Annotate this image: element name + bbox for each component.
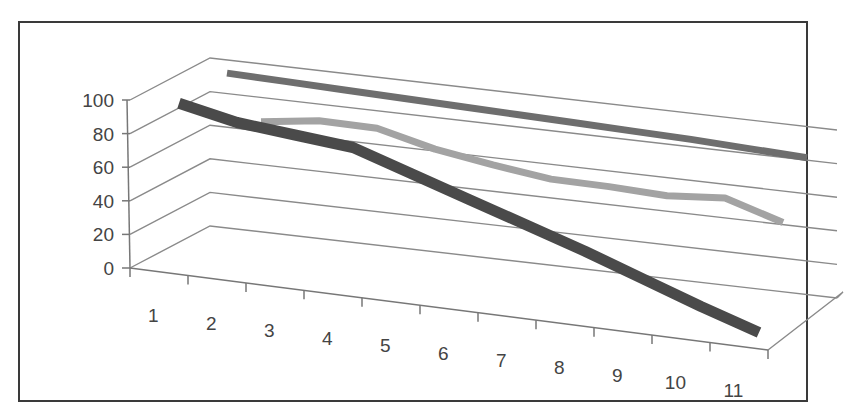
y-tick-label: 40 [93,191,114,212]
line-chart-3d: 020406080100 1234567891011 [0,0,848,418]
y-tick-label: 60 [93,157,114,178]
x-tick-label: 10 [665,372,686,393]
x-tick-label: 2 [206,313,217,334]
series-line-1 [227,73,807,158]
x-tick-label: 7 [496,350,507,371]
x-axis-labels: 1234567891011 [148,305,743,401]
y-tick-label: 100 [82,90,114,111]
data-series [179,73,807,332]
x-tick-label: 1 [148,305,159,326]
y-axis-line [127,100,130,268]
x-tick-label: 8 [554,357,565,378]
floor-edge [768,292,843,350]
gridline [130,226,837,298]
x-tick-label: 6 [438,343,449,364]
y-tick-label: 20 [93,224,114,245]
x-tick-label: 5 [380,335,391,356]
x-tick-label: 3 [264,320,275,341]
x-tick-label: 4 [322,328,333,349]
x-axis-line [130,268,768,350]
x-tick-label: 9 [612,365,623,386]
y-tick-label: 80 [93,124,114,145]
x-tick-label: 11 [724,380,744,401]
y-tick-label: 0 [103,258,114,279]
y-axis-labels: 020406080100 [82,90,114,279]
